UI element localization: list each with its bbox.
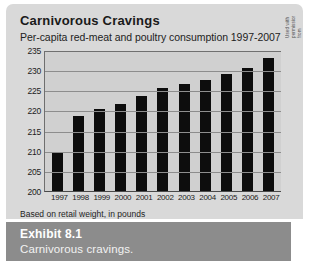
y-axis-tick: 235 — [27, 46, 41, 56]
x-axis: 1997199819992000200120022003200420052006… — [44, 193, 281, 207]
x-axis-tick: 1998 — [72, 193, 83, 207]
source-credit: Used with permission from Restaurants US… — [281, 16, 303, 219]
x-axis-tick: 2000 — [115, 193, 126, 207]
gridline — [45, 111, 281, 112]
bar — [115, 104, 126, 191]
gridline — [45, 172, 281, 173]
y-axis-tick: 220 — [27, 106, 41, 116]
bar-chart-plot: 235230225220215210205200 199719981999200… — [20, 51, 281, 199]
chart-footnote: Based on retail weight, in pounds — [20, 209, 145, 219]
gridline — [45, 152, 281, 153]
y-axis-tick: 210 — [27, 147, 41, 157]
caption-bar: Exhibit 8.1 Carnivorous cravings. — [6, 222, 291, 261]
bar — [73, 116, 84, 191]
bar — [94, 109, 105, 191]
chart-title: Carnivorous Cravings — [20, 13, 160, 28]
y-axis-tick: 230 — [27, 66, 41, 76]
x-axis-tick: 2001 — [136, 193, 147, 207]
exhibit-caption: Carnivorous cravings. — [20, 243, 133, 255]
gridline — [45, 51, 281, 52]
plot-area — [44, 51, 281, 192]
gridline — [45, 132, 281, 133]
exhibit-figure: Carnivorous Cravings Per-capita red-meat… — [0, 0, 309, 261]
x-axis-tick: 2004 — [199, 193, 210, 207]
gridline — [45, 91, 281, 92]
x-axis-tick: 1997 — [51, 193, 62, 207]
exhibit-label: Exhibit 8.1 — [20, 227, 82, 241]
x-axis-tick: 2005 — [220, 193, 231, 207]
x-axis-tick: 1999 — [93, 193, 104, 207]
bar — [179, 84, 190, 191]
y-axis-tick: 215 — [27, 127, 41, 137]
y-axis-tick: 205 — [27, 167, 41, 177]
y-axis-tick: 200 — [27, 187, 41, 197]
chart-card: Carnivorous Cravings Per-capita red-meat… — [6, 4, 303, 219]
bar — [157, 88, 168, 191]
bar — [200, 80, 211, 191]
x-axis-tick: 2007 — [263, 193, 274, 207]
source-credit-text: Used with permission from Restaurants US… — [285, 16, 303, 38]
x-axis-tick: 2003 — [178, 193, 189, 207]
chart-subtitle: Per-capita red-meat and poultry consumpt… — [20, 31, 281, 43]
gridline — [45, 71, 281, 72]
y-axis-tick: 225 — [27, 86, 41, 96]
x-axis-tick: 2002 — [157, 193, 168, 207]
y-axis: 235230225220215210205200 — [20, 51, 44, 192]
x-axis-tick: 2006 — [242, 193, 253, 207]
